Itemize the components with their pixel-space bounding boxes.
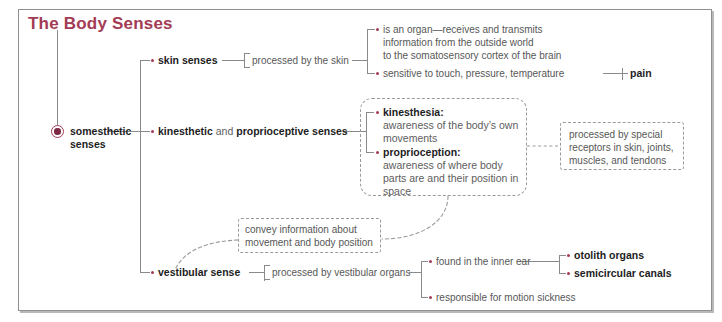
branch-label-kinesthetic-conjunction: and — [213, 125, 236, 137]
bullet-kinesthetic-senses — [151, 130, 154, 133]
detail-convey-info: convey information about movement and bo… — [245, 223, 381, 249]
bullet-skin-senses — [151, 59, 154, 62]
root-marker-core — [54, 128, 61, 135]
branch-label-kinesthetic-bold1: kinesthetic — [158, 125, 213, 137]
connector-label-processed-by-vestibular-organs: processed by vestibular organs — [272, 266, 410, 279]
detail-skin-organ-line1: is an organ—receives and transmits — [383, 23, 633, 36]
detail-skin-organ-line2: information from the outside world — [383, 36, 633, 49]
branch-label-kinesthetic-bold2: proprioceptive senses — [236, 125, 347, 137]
detail-receptors-line1: processed by special — [569, 128, 681, 141]
branch-label-vestibular-sense: vestibular sense — [158, 266, 240, 279]
detail-skin-organ: is an organ—receives and transmits infor… — [383, 23, 633, 62]
root-label-line2: senses — [70, 138, 150, 151]
detail-motion-sickness: responsible for motion sickness — [436, 291, 576, 304]
detail-receptors-line3: muscles, and tendons — [569, 154, 681, 167]
page-title: The Body Senses — [28, 14, 173, 34]
detail-proprioception-line3: space — [383, 185, 528, 198]
detail-convey-info-line2: movement and body position — [245, 236, 381, 249]
connector-label-processed-by-the-skin: processed by the skin — [252, 54, 349, 67]
bullet-skin-organ — [376, 28, 379, 31]
detail-kinesthesia-term: kinesthesia: — [383, 106, 523, 119]
detail-receptors: processed by special receptors in skin, … — [569, 128, 681, 167]
detail-kinesthesia-line1: awareness of the body’s own — [383, 119, 523, 132]
bullet-proprioception — [376, 151, 379, 154]
bullet-semicircular-canals — [567, 272, 570, 275]
bullet-kinesthesia — [376, 111, 379, 114]
detail-receptors-line2: receptors in skin, joints, — [569, 141, 681, 154]
detail-otolith-organs: otolith organs — [574, 249, 644, 262]
detail-inner-ear: found in the inner ear — [436, 255, 531, 268]
detail-convey-info-line1: convey information about — [245, 223, 381, 236]
detail-proprioception-line1: awareness of where body — [383, 159, 528, 172]
root-label-line1: somesthetic — [70, 125, 150, 138]
detail-kinesthesia: kinesthesia: awareness of the body’s own… — [383, 106, 523, 145]
detail-proprioception: proprioception: awareness of where body … — [383, 146, 528, 198]
detail-skin-organ-line3: to the somatosensory cortex of the brain — [383, 49, 633, 62]
branch-label-kinesthetic-senses: kinesthetic and proprioceptive senses — [158, 125, 348, 138]
detail-proprioception-line2: parts are and their position in — [383, 172, 528, 185]
bullet-otolith-organs — [567, 254, 570, 257]
bullet-motion-sickness — [429, 296, 432, 299]
detail-kinesthesia-line2: movements — [383, 132, 523, 145]
root-node-label: somesthetic senses — [70, 125, 150, 151]
detail-semicircular-canals: semicircular canals — [574, 267, 671, 280]
root-node-marker — [51, 125, 64, 138]
body-senses-concept-map: The Body Senses somesthetic senses skin … — [0, 0, 722, 322]
bullet-inner-ear — [429, 260, 432, 263]
detail-skin-sensitive: sensitive to touch, pressure, temperatur… — [383, 67, 564, 80]
bullet-skin-sensitive — [376, 72, 379, 75]
bullet-vestibular-sense — [151, 271, 154, 274]
detail-proprioception-term: proprioception: — [383, 146, 528, 159]
detail-pain: pain — [630, 67, 652, 80]
branch-label-skin-senses: skin senses — [158, 54, 218, 67]
